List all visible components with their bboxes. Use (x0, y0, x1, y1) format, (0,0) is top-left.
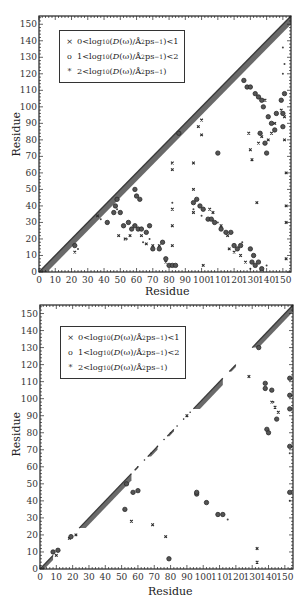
legend-lt: < (82, 49, 89, 64)
data-point (263, 386, 267, 390)
data-point (192, 208, 194, 210)
data-point (113, 204, 117, 208)
data-point (227, 519, 229, 521)
data-point (274, 406, 277, 409)
legend-log: log (89, 64, 102, 79)
data-point (200, 119, 203, 122)
x-tick-label: 40 (98, 275, 110, 285)
legend-sub: 10 (103, 345, 111, 360)
legend-lt: < (167, 345, 174, 360)
legend-ps: ps (145, 64, 154, 79)
legend-item-low: × 0 < log10 (D(ω)/Å2ps−1) < 1 (65, 34, 179, 49)
y-tick-label: 60 (26, 168, 38, 178)
data-point (266, 115, 270, 119)
data-point (77, 248, 79, 250)
data-point (238, 243, 242, 247)
data-point (145, 243, 148, 246)
data-point (171, 244, 174, 247)
data-point (281, 111, 285, 115)
legend-log: log (90, 360, 103, 375)
data-point (51, 550, 55, 554)
data-point (171, 202, 173, 204)
y-tick-label: 90 (26, 118, 38, 128)
data-point (126, 220, 130, 224)
data-point (263, 141, 267, 145)
legend-sub: 10 (103, 330, 111, 345)
x-tick-label: 100 (195, 572, 212, 582)
data-point (270, 388, 274, 392)
legend-sub: 10 (102, 34, 110, 49)
legend-bottom: × 0 < log10 (D(ω)/Å2ps−1) < 1 o 1 < log1… (60, 326, 186, 379)
legend-item-low: × 0 < log10 (D(ω)/Å2ps−1) < 1 (66, 330, 180, 345)
legend-omega: (ω) (120, 330, 133, 345)
legend-log: log (90, 345, 103, 360)
y-tick-label: 20 (27, 530, 39, 540)
data-point (147, 224, 151, 228)
data-point (247, 132, 250, 135)
y-tick-label: 70 (27, 445, 39, 455)
legend-omega: (ω) (120, 360, 133, 375)
legend-paren: ) (163, 64, 166, 79)
legend-item-mid: o 1 < log10 (D(ω)/Å2ps−1) < 2 (66, 345, 180, 360)
data-point (256, 260, 260, 264)
y-tick-label: 80 (27, 428, 39, 438)
legend-lt: < (167, 330, 174, 345)
data-point (289, 452, 291, 454)
data-point (201, 215, 203, 217)
data-point (248, 375, 251, 378)
x-tick-label: 150 (274, 275, 291, 285)
y-tick-label: 10 (26, 250, 38, 260)
data-point (242, 78, 246, 82)
legend-d: D (114, 345, 121, 360)
legend-unit: /Å (133, 360, 142, 375)
data-point (273, 128, 277, 132)
data-point (266, 264, 268, 266)
data-point (282, 73, 284, 75)
legend-lt: < (82, 64, 89, 79)
data-point (216, 151, 220, 155)
legend-log: log (89, 34, 102, 49)
x-tick-label: 10 (51, 572, 63, 582)
data-point (140, 234, 143, 237)
y-axis-label-top: Residue (10, 117, 23, 157)
legend-lt: < (83, 360, 90, 375)
legend-ps: ps (146, 345, 155, 360)
data-point (192, 188, 195, 191)
asterisk-marker-icon: * (66, 360, 75, 375)
data-point (256, 547, 259, 550)
circle-marker-icon: o (66, 345, 75, 360)
x-tick-label: 80 (165, 572, 177, 582)
legend-unit: /Å (132, 34, 141, 49)
data-point (144, 230, 148, 234)
data-point (171, 224, 174, 227)
legend-omega: (ω) (119, 49, 132, 64)
x-tick-label: 0 (36, 275, 42, 285)
y-tick-label: 130 (21, 343, 38, 353)
legend-sup: −1 (154, 34, 163, 49)
asterisk-marker-icon: * (65, 64, 74, 79)
x-tick-label: 10 (50, 275, 62, 285)
data-point (249, 148, 252, 151)
data-point (139, 227, 143, 231)
x-tick-label: 70 (149, 572, 161, 582)
x-tick-label: 90 (181, 572, 193, 582)
x-tick-label: 150 (276, 572, 293, 582)
data-point (112, 210, 116, 214)
legend-sup: −1 (155, 330, 164, 345)
data-point (171, 168, 174, 171)
x-tick-label: 80 (163, 275, 175, 285)
x-tick-label: 50 (116, 572, 128, 582)
data-point (197, 125, 200, 128)
data-point (212, 220, 216, 224)
data-point (177, 131, 181, 135)
data-point (204, 500, 208, 504)
data-point (282, 91, 286, 95)
contact-map-top: 0102030405060708090100110120130140150010… (0, 0, 306, 300)
data-point (258, 131, 262, 135)
y-tick-label: 40 (27, 496, 39, 506)
x-tick-label: 130 (244, 572, 261, 582)
x-marker-icon: × (66, 330, 75, 345)
legend-item-mid: o 1 < log10 (D(ω)/Å2ps−1) < 2 (65, 49, 179, 64)
y-tick-label: 150 (21, 309, 38, 319)
y-tick-label: 20 (26, 234, 38, 244)
